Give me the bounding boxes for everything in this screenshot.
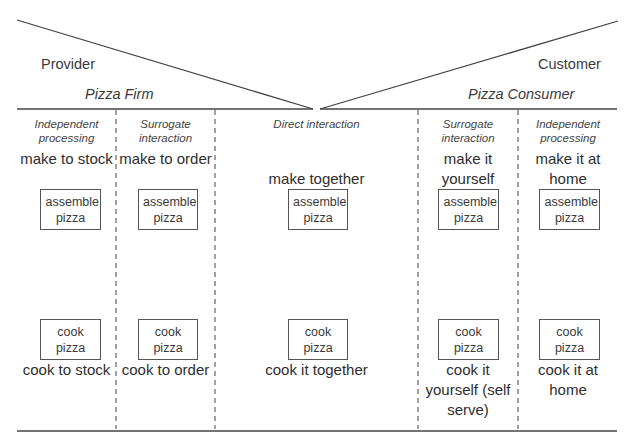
mode-label-surrogate-interaction: Surrogate interaction <box>418 117 518 145</box>
box-label: cook pizza <box>53 324 89 356</box>
provider-label: Provider <box>41 56 95 72</box>
mode-label-independent-processing: Independent processing <box>518 117 618 145</box>
customer-label: Customer <box>538 56 601 72</box>
make-strategy-label: make to order <box>116 149 215 169</box>
box-label: assemble pizza <box>143 194 193 226</box>
pizza-consumer-label: Pizza Consumer <box>468 86 574 102</box>
make-strategy-label: make it at home <box>518 149 618 189</box>
assemble-pizza-box: assemble pizza <box>539 189 600 230</box>
cook-strategy-label: cook it yourself (self serve) <box>418 360 518 420</box>
assemble-pizza-box: assemble pizza <box>40 189 101 230</box>
cook-strategy-label: cook it at home <box>518 360 618 400</box>
cook-pizza-box: cook pizza <box>288 319 348 360</box>
cook-pizza-box: cook pizza <box>138 319 198 360</box>
mode-label-direct-interaction: Direct interaction <box>215 117 418 131</box>
mode-label-surrogate-interaction: Surrogate interaction <box>116 117 215 145</box>
make-strategy-label: make to stock <box>17 149 116 169</box>
assemble-pizza-box: assemble pizza <box>138 189 198 230</box>
assemble-pizza-box: assemble pizza <box>438 189 499 230</box>
make-strategy-label: make it yourself <box>418 149 518 189</box>
box-label: cook pizza <box>300 324 336 356</box>
cook-pizza-box: cook pizza <box>539 319 600 360</box>
box-label: cook pizza <box>150 324 186 356</box>
assemble-pizza-box: assemble pizza <box>288 189 348 230</box>
box-label: cook pizza <box>552 324 588 356</box>
cook-pizza-box: cook pizza <box>40 319 101 360</box>
make-strategy-label: make together <box>215 169 418 189</box>
box-label: assemble pizza <box>444 194 494 226</box>
cook-strategy-label: cook to order <box>116 360 215 380</box>
box-label: assemble pizza <box>545 194 595 226</box>
box-label: assemble pizza <box>293 194 343 226</box>
box-label: assemble pizza <box>46 194 96 226</box>
box-label: cook pizza <box>451 324 487 356</box>
cook-strategy-label: cook to stock <box>17 360 116 380</box>
mode-label-independent-processing: Independent processing <box>17 117 116 145</box>
cook-strategy-label: cook it together <box>215 360 418 380</box>
cook-pizza-box: cook pizza <box>438 319 499 360</box>
pizza-firm-label: Pizza Firm <box>85 86 153 102</box>
